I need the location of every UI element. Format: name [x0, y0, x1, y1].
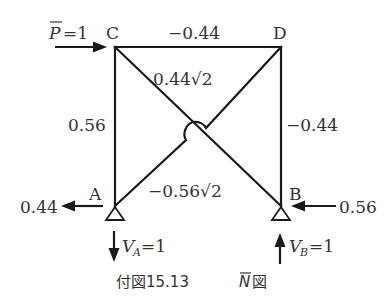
member-label-bd: −0.44 — [286, 115, 338, 135]
arrow-head-right-icon — [93, 42, 107, 53]
node-label-d: D — [273, 23, 287, 43]
arrow-head-left-icon — [61, 201, 75, 212]
arrow-head-up-icon — [275, 233, 286, 247]
node-label-b: B — [289, 184, 302, 204]
caption-prefix: 付図15.13 — [116, 273, 189, 291]
caption-symbol: N — [239, 273, 250, 291]
member-label-ac: 0.56 — [68, 115, 106, 135]
node-label-c: C — [106, 23, 119, 43]
load-symbol: P — [48, 23, 61, 43]
arrow-head-down-icon — [109, 248, 120, 262]
reaction-label-b-vertical: V B =1 — [289, 236, 334, 259]
vb-value: =1 — [309, 236, 334, 256]
va-value: =1 — [141, 236, 166, 256]
reaction-label-a-vertical: V A =1 — [122, 236, 166, 259]
figure-caption: 付図15.13 N 図 — [116, 273, 267, 291]
member-label-cd: −0.44 — [168, 23, 220, 43]
reaction-label-a-horizontal: 0.44 — [20, 197, 58, 217]
vb-subscript: B — [299, 246, 308, 259]
reaction-label-b-horizontal: 0.56 — [339, 197, 377, 217]
member-label-cb: 0.44√2 — [153, 69, 213, 89]
pin-support-b — [272, 207, 290, 220]
load-value: =1 — [63, 23, 88, 43]
pin-support-a — [106, 207, 124, 220]
caption-suffix: 図 — [252, 273, 267, 291]
va-subscript: A — [132, 246, 141, 259]
truss-diagram: P =1 C D A B −0.44 0.56 −0.44 0.44√2 −0.… — [0, 0, 388, 308]
member-label-ad: −0.56√2 — [148, 181, 222, 201]
load-label-p: P =1 — [48, 22, 88, 43]
node-label-a: A — [88, 184, 102, 204]
